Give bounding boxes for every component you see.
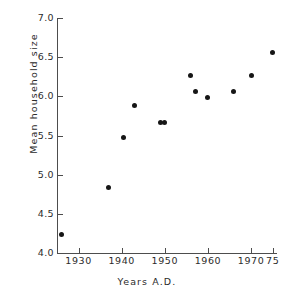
data-point [106,185,111,190]
y-axis-tick [58,96,63,97]
data-point [270,50,275,55]
scatter-plot-figure: 7.06.56.05.55.04.54.0 193019401950196019… [0,0,294,295]
x-axis-tick [79,248,80,253]
y-axis-tick [58,136,63,137]
data-point [231,89,236,94]
data-point [249,73,254,78]
y-axis-tick-label: 4.0 [10,247,54,258]
y-axis-tick [58,253,63,254]
data-point [162,120,167,125]
x-axis-line [57,253,277,254]
y-axis-tick [58,214,63,215]
x-axis-tick [208,248,209,253]
x-axis-title: Years A.D. [0,276,294,287]
x-axis-tick-label: 75 [248,255,294,266]
y-axis-tick [58,175,63,176]
data-point [205,95,210,100]
y-axis-tick [58,18,63,19]
x-axis-tick [122,248,123,253]
y-axis-tick [58,57,63,58]
x-axis-tick [251,248,252,253]
y-axis-tick-label: 4.5 [10,208,54,219]
y-axis-title: Mean household size [28,9,39,179]
plot-area: 7.06.56.05.55.04.54.0 193019401950196019… [0,0,294,295]
data-point [193,89,198,94]
data-point [188,73,193,78]
x-axis-tick [273,248,274,253]
x-axis-tick [165,248,166,253]
data-point [121,135,126,140]
data-point [59,232,64,237]
data-point [132,103,137,108]
